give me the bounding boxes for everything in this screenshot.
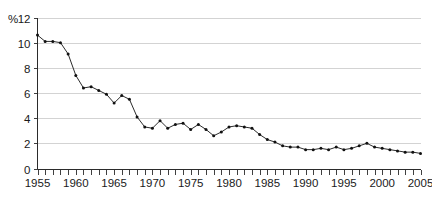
data-point — [388, 148, 391, 151]
data-point — [411, 151, 414, 154]
data-point — [365, 142, 368, 145]
data-series-markers — [36, 34, 422, 155]
data-point — [159, 119, 162, 122]
y-tick-label: 10 — [18, 38, 31, 50]
x-tick-label: 1965 — [101, 177, 127, 189]
data-point — [235, 124, 238, 127]
data-series-line — [38, 35, 421, 153]
data-point — [67, 52, 70, 55]
data-point — [266, 138, 269, 141]
y-tick-label: 4 — [24, 113, 31, 125]
data-point — [419, 152, 422, 155]
y-tick-label: 0 — [24, 164, 30, 176]
data-point — [113, 102, 116, 105]
data-point — [381, 147, 384, 150]
data-point — [189, 128, 192, 131]
x-tick-label: 1985 — [255, 177, 281, 189]
data-point — [273, 141, 276, 144]
data-point — [243, 125, 246, 128]
data-point — [36, 34, 39, 37]
data-point — [97, 89, 100, 92]
x-tick-label: 1975 — [178, 177, 204, 189]
data-point — [44, 40, 47, 43]
data-point — [220, 131, 223, 134]
data-point — [105, 93, 108, 96]
data-point — [327, 148, 330, 151]
data-point — [128, 98, 131, 101]
x-axis-tick-labels: 1955196019651970197519801985199019952000… — [25, 177, 432, 189]
data-point — [90, 85, 93, 88]
x-tick-label: 1995 — [331, 177, 357, 189]
data-point — [258, 133, 261, 136]
x-tick-label: 1990 — [293, 177, 319, 189]
data-point — [373, 146, 376, 149]
y-tick-label-top: 12 — [18, 13, 31, 25]
data-point — [151, 127, 154, 130]
y-tick-label: 6 — [24, 88, 30, 100]
data-point — [182, 122, 185, 125]
data-point — [174, 123, 177, 126]
data-point — [281, 144, 284, 147]
gridlines — [38, 19, 421, 144]
data-point — [82, 86, 85, 89]
data-point — [59, 41, 62, 44]
data-point — [51, 40, 54, 43]
data-point — [358, 144, 361, 147]
data-point — [205, 128, 208, 131]
y-tick-label: 8 — [24, 63, 30, 75]
data-point — [289, 146, 292, 149]
data-point — [350, 147, 353, 150]
x-tick-label: 1960 — [63, 177, 89, 189]
x-axis-ticks — [39, 170, 422, 175]
data-point — [319, 147, 322, 150]
y-tick-label: 2 — [24, 138, 30, 150]
x-tick-label: 1970 — [140, 177, 166, 189]
x-tick-label: 1980 — [216, 177, 242, 189]
line-chart: 0246810 19551960196519701975198019851990… — [0, 0, 432, 207]
data-point — [304, 148, 307, 151]
data-point — [296, 146, 299, 149]
x-tick-label: 2000 — [369, 177, 395, 189]
data-point — [228, 125, 231, 128]
y-axis-unit-label: % — [8, 13, 18, 25]
y-axis-tick-labels: 0246810 — [18, 38, 31, 176]
data-point — [74, 74, 77, 77]
data-point — [212, 134, 215, 137]
data-point — [143, 125, 146, 128]
data-point — [250, 127, 253, 130]
data-point — [312, 148, 315, 151]
data-point — [396, 149, 399, 152]
data-point — [197, 123, 200, 126]
chart-container: 0246810 19551960196519701975198019851990… — [0, 0, 432, 207]
x-tick-label: 1955 — [25, 177, 51, 189]
data-point — [136, 115, 139, 118]
data-point — [120, 94, 123, 97]
y-axis-ticks — [34, 19, 38, 170]
data-point — [166, 127, 169, 130]
data-point — [342, 148, 345, 151]
data-point — [404, 151, 407, 154]
data-point — [335, 146, 338, 149]
x-tick-label: 2005 — [408, 177, 432, 189]
